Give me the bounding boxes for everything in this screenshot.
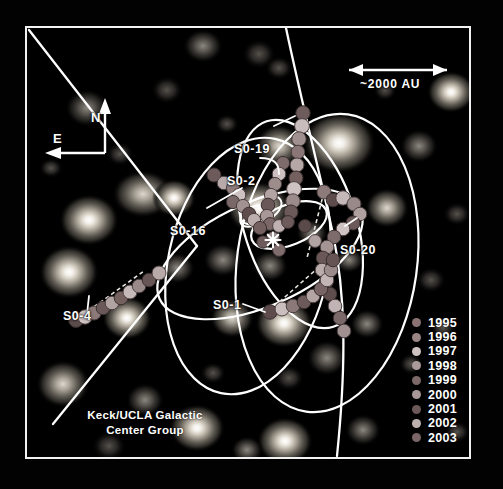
star-label-so-4: S0-4 (63, 309, 91, 323)
legend-dot-2001 (412, 405, 421, 414)
scale-bar-label: ~2000 AU (360, 77, 420, 91)
legend-year-1996: 1996 (428, 330, 457, 344)
star-label-so-19: S0-19 (234, 142, 270, 156)
star-label-so-1: S0-1 (213, 298, 241, 312)
so-4-trajectory-lower (53, 246, 197, 424)
legend-year-1999: 1999 (428, 373, 457, 387)
image-frame: S0-19 S0-2 S0-16 S0-20 S0-4 S0-1 N E ~20… (25, 26, 471, 459)
legend-row: 2003 (412, 431, 457, 445)
arrow-head-right (433, 64, 447, 76)
legend-dot-1998 (412, 361, 421, 370)
orbit-overlay (27, 28, 469, 457)
so-1-epoch-dots (263, 253, 340, 319)
galactic-center-figure: S0-19 S0-2 S0-16 S0-20 S0-4 S0-1 N E ~20… (0, 0, 503, 489)
sgr-a-star-marker (266, 233, 281, 248)
legend-row: 2002 (412, 416, 457, 430)
sky-image: S0-19 S0-2 S0-16 S0-20 S0-4 S0-1 N E ~20… (27, 28, 469, 457)
legend-row: 2001 (412, 402, 457, 416)
compass-rose (45, 98, 111, 159)
legend-dot-2003 (412, 433, 421, 442)
legend-year-2003: 2003 (428, 431, 457, 445)
legend-row: 1995 (412, 315, 457, 329)
legend-row: 1999 (412, 373, 457, 387)
legend-row: 1996 (412, 330, 457, 344)
epoch-legend: 1995 1996 1997 1998 1999 (412, 315, 457, 445)
legend-year-2001: 2001 (428, 402, 457, 416)
arrow-head-left (349, 64, 363, 76)
credit-line-1: Keck/UCLA Galactic (55, 408, 235, 423)
legend-dot-1995 (412, 318, 421, 327)
star-label-so-16: S0-16 (170, 224, 206, 238)
open-trajectory-group (29, 28, 343, 456)
legend-dot-1999 (412, 376, 421, 385)
legend-row: 1998 (412, 359, 457, 373)
legend-year-1997: 1997 (428, 344, 457, 358)
legend-year-1995: 1995 (428, 316, 457, 330)
legend-year-2002: 2002 (428, 416, 457, 430)
east-arrow-head (45, 147, 61, 159)
star-label-so-2: S0-2 (227, 174, 255, 188)
credit-text: Keck/UCLA Galactic Center Group (55, 408, 235, 438)
compass-north-label: N (91, 110, 101, 125)
legend-year-1998: 1998 (428, 359, 457, 373)
scale-bar (349, 64, 447, 76)
legend-dot-1996 (412, 333, 421, 342)
legend-dot-2002 (412, 419, 421, 428)
legend-row: 1997 (412, 344, 457, 358)
legend-row: 2000 (412, 387, 457, 401)
compass-east-label: E (53, 131, 62, 146)
legend-year-2000: 2000 (428, 388, 457, 402)
credit-line-2: Center Group (55, 423, 235, 438)
legend-dot-1997 (412, 347, 421, 356)
star-label-so-20: S0-20 (340, 243, 376, 257)
legend-dot-2000 (412, 390, 421, 399)
